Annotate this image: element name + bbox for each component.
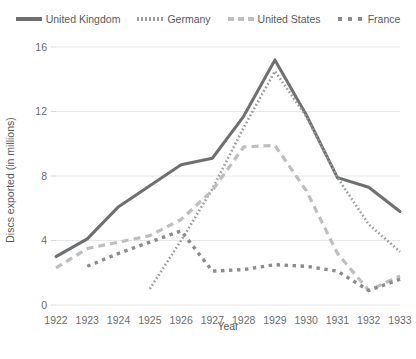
- series-line-germany: [150, 71, 400, 289]
- y-axis-title: Discs exported (in millions): [4, 117, 16, 242]
- x-tick-label: 1933: [388, 314, 412, 326]
- legend-swatch-france-icon: [338, 17, 364, 21]
- legend-item-france[interactable]: France: [338, 14, 401, 25]
- legend-label-united-states: United States: [258, 14, 321, 25]
- y-axis-ticks: 0481216: [35, 41, 47, 311]
- y-tick-label: 4: [41, 234, 47, 246]
- y-tick-label: 8: [41, 170, 47, 182]
- x-tick-label: 1929: [263, 314, 287, 326]
- y-tick-label: 16: [35, 41, 47, 53]
- legend-swatch-germany-icon: [137, 17, 163, 21]
- legend-label-france: France: [368, 14, 401, 25]
- line-chart: United Kingdom Germany United States Fra…: [0, 0, 416, 359]
- x-tick-label: 1926: [169, 314, 193, 326]
- legend-item-germany[interactable]: Germany: [137, 14, 210, 25]
- legend-swatch-united-kingdom-icon: [16, 17, 42, 21]
- y-tick-label: 0: [41, 299, 47, 311]
- x-tick-label: 1925: [138, 314, 162, 326]
- legend-swatch-united-states-icon: [228, 17, 254, 21]
- series-lines: [56, 60, 400, 291]
- plot-svg: 0481216 19221923192419251926192719281929…: [0, 30, 416, 359]
- x-tick-label: 1930: [295, 314, 319, 326]
- x-axis-title: Year: [217, 320, 239, 332]
- legend-label-germany: Germany: [167, 14, 210, 25]
- chart-legend: United Kingdom Germany United States Fra…: [0, 8, 416, 30]
- plot-area-wrapper: 0481216 19221923192419251926192719281929…: [0, 30, 416, 359]
- legend-item-united-kingdom[interactable]: United Kingdom: [16, 14, 121, 25]
- x-tick-label: 1924: [107, 314, 131, 326]
- legend-item-united-states[interactable]: United States: [228, 14, 321, 25]
- x-tick-label: 1922: [44, 314, 68, 326]
- legend-label-united-kingdom: United Kingdom: [46, 14, 121, 25]
- x-tick-label: 1931: [326, 314, 350, 326]
- y-tick-label: 12: [35, 105, 47, 117]
- gridlines: [51, 47, 400, 305]
- x-tick-label: 1932: [357, 314, 381, 326]
- x-tick-label: 1923: [76, 314, 100, 326]
